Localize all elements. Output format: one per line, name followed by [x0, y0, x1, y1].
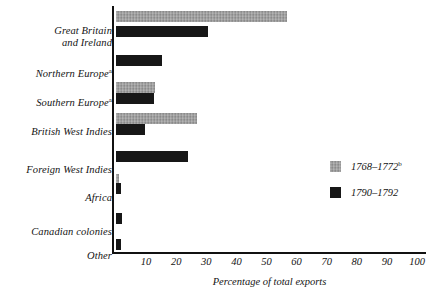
category-label-text: British West Indies: [31, 126, 112, 137]
bar-chart: Great Britain and Ireland Northern Europ…: [0, 0, 439, 304]
category-label-foreign-west-indies: Foreign West Indies: [26, 152, 112, 176]
bar-british-west-indies-1768-1772: [116, 113, 197, 124]
x-tick-label-10: 10: [141, 256, 152, 267]
legend-label-text: 1790–1792: [351, 187, 398, 198]
category-label-northern-europe: Northern Europea: [36, 56, 112, 80]
bar-great-britain-and-ireland-1790-1792: [116, 26, 208, 37]
category-label-text: Canadian colonies: [31, 226, 112, 237]
bar-southern-europe-1790-1792: [116, 93, 154, 104]
category-label-text: Foreign West Indies: [26, 164, 112, 175]
bar-southern-europe-1768-1772: [116, 82, 155, 93]
x-tick-label-30: 30: [201, 256, 212, 267]
bar-africa-1768-1772: [116, 174, 119, 183]
category-label-text: Other: [87, 250, 112, 261]
x-tick-label-60: 60: [291, 256, 302, 267]
category-label-text: Southern Europe: [36, 97, 109, 108]
x-tick-label-70: 70: [321, 256, 332, 267]
x-axis-line: [112, 252, 426, 254]
y-axis-line: [112, 6, 114, 253]
bar-canadian-colonies-1790-1792: [116, 213, 122, 224]
legend-label-1768-1772: 1768–1772b: [351, 161, 402, 172]
x-tick-label-80: 80: [352, 256, 363, 267]
legend-swatch-icon-1790-1792: [330, 187, 341, 198]
x-tick-label-20: 20: [171, 256, 182, 267]
x-tick-label-100: 100: [409, 256, 425, 267]
category-label-british-west-indies: British West Indies: [31, 114, 112, 138]
x-tick-label-50: 50: [261, 256, 272, 267]
bar-africa-1790-1792: [116, 183, 121, 194]
category-label-text: Northern Europe: [36, 68, 109, 79]
bar-british-west-indies-1790-1792: [116, 124, 145, 135]
category-label-africa: Africa: [85, 180, 112, 204]
category-label-southern-europe: Southern Europea: [36, 85, 112, 109]
category-label-great-britain-and-ireland: Great Britain and Ireland: [54, 13, 112, 49]
category-label-other: Other: [87, 238, 112, 262]
legend-swatch-icon-1768-1772: [330, 161, 341, 172]
x-tick-label-40: 40: [231, 256, 242, 267]
legend-item-1768-1772: 1768–1772b: [330, 153, 402, 179]
category-label-canadian-colonies: Canadian colonies: [31, 214, 112, 238]
category-label-text: Great Britain and Ireland: [54, 25, 112, 48]
bar-northern-europe-1790-1792: [116, 55, 162, 66]
x-tick-label-90: 90: [382, 256, 393, 267]
legend: 1768–1772b 1790–1792: [330, 153, 402, 205]
x-axis-title: Percentage of total exports: [112, 276, 427, 287]
footnote-marker-b: b: [398, 159, 402, 167]
legend-item-1790-1792: 1790–1792: [330, 179, 402, 205]
bar-other-1790-1792: [116, 239, 121, 250]
legend-label-1790-1792: 1790–1792: [351, 187, 398, 198]
bar-great-britain-and-ireland-1768-1772: [116, 11, 287, 22]
plot-area: [112, 8, 427, 252]
category-label-text: Africa: [85, 192, 112, 203]
legend-label-text: 1768–1772: [351, 161, 398, 172]
bar-foreign-west-indies-1790-1792: [116, 151, 188, 162]
